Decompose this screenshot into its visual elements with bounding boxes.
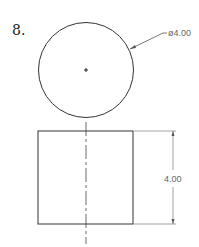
front-view-rectangle xyxy=(38,131,133,224)
center-mark-icon xyxy=(84,68,88,72)
height-dimension: 4.00 xyxy=(164,174,182,184)
diameter-dimension: ø4.00 xyxy=(168,28,191,38)
drawing: ø4.00 4.00 xyxy=(0,0,199,247)
diameter-leader xyxy=(130,33,167,49)
